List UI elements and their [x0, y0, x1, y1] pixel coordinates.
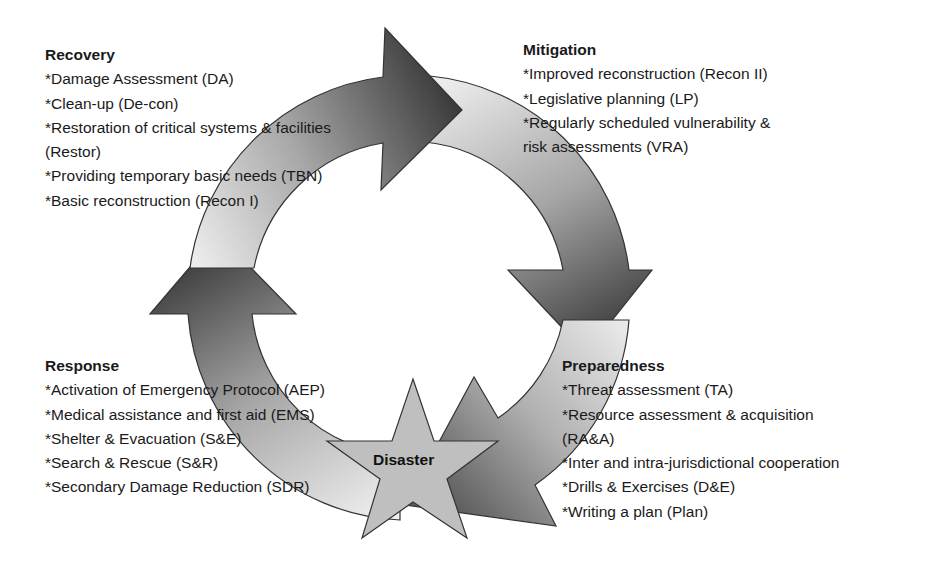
- preparedness-item: *Drills & Exercises (D&E): [562, 475, 839, 499]
- recovery-item: *Restoration of critical systems & facil…: [45, 116, 331, 140]
- mitigation-item: risk assessments (VRA): [523, 135, 770, 159]
- response-item: *Medical assistance and first aid (EMS): [45, 403, 325, 427]
- recovery-item: (Restor): [45, 140, 331, 164]
- response-item: *Search & Rescue (S&R): [45, 451, 325, 475]
- recovery-title: Recovery: [45, 43, 331, 67]
- preparedness-item: *Inter and intra-jurisdictional cooperat…: [562, 451, 839, 475]
- response-item: *Secondary Damage Reduction (SDR): [45, 475, 325, 499]
- preparedness-title: Preparedness: [562, 354, 839, 378]
- recovery-item: *Basic reconstruction (Recon I): [45, 189, 331, 213]
- mitigation-item: *Improved reconstruction (Recon II): [523, 62, 770, 86]
- preparedness-item: (RA&A): [562, 427, 839, 451]
- response-phase: Response *Activation of Emergency Protoc…: [45, 354, 325, 500]
- recovery-item: *Clean-up (De-con): [45, 92, 331, 116]
- mitigation-phase: Mitigation *Improved reconstruction (Rec…: [523, 38, 770, 159]
- response-item: *Shelter & Evacuation (S&E): [45, 427, 325, 451]
- mitigation-item: *Regularly scheduled vulnerability &: [523, 111, 770, 135]
- preparedness-item: *Resource assessment & acquisition: [562, 403, 839, 427]
- response-title: Response: [45, 354, 325, 378]
- disaster-label: Disaster: [373, 451, 434, 469]
- recovery-phase: Recovery *Damage Assessment (DA) *Clean-…: [45, 43, 331, 213]
- recovery-item: *Providing temporary basic needs (TBN): [45, 164, 331, 188]
- recovery-item: *Damage Assessment (DA): [45, 67, 331, 91]
- response-item: *Activation of Emergency Protocol (AEP): [45, 378, 325, 402]
- preparedness-item: *Threat assessment (TA): [562, 378, 839, 402]
- mitigation-item: *Legislative planning (LP): [523, 87, 770, 111]
- preparedness-phase: Preparedness *Threat assessment (TA) *Re…: [562, 354, 839, 524]
- mitigation-title: Mitigation: [523, 38, 770, 62]
- preparedness-item: *Writing a plan (Plan): [562, 500, 839, 524]
